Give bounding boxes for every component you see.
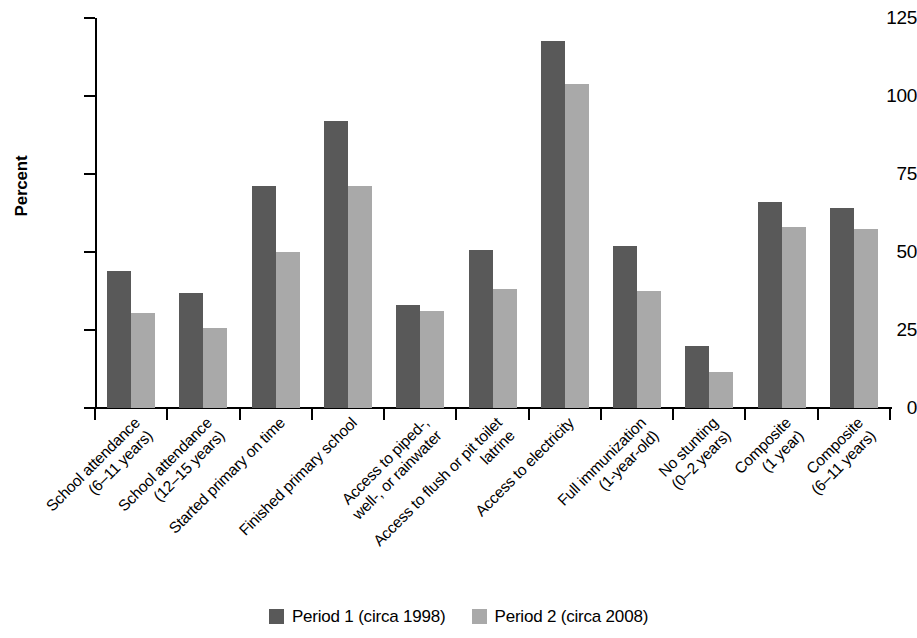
bar — [131, 313, 155, 408]
bar — [830, 208, 854, 408]
bar — [203, 328, 227, 408]
legend-swatch-icon — [269, 609, 284, 624]
legend-swatch-icon — [472, 609, 487, 624]
legend-item: Period 2 (circa 2008) — [472, 608, 649, 625]
bar — [493, 289, 517, 408]
bar — [685, 346, 709, 408]
bar — [782, 227, 806, 408]
bar — [107, 271, 131, 408]
bar — [758, 202, 782, 408]
bar — [637, 291, 661, 408]
legend-label: Period 1 (circa 1998) — [292, 608, 446, 625]
legend-item: Period 1 (circa 1998) — [269, 608, 446, 625]
bar — [541, 41, 565, 408]
bar — [420, 311, 444, 408]
y-axis-tick — [84, 329, 95, 331]
bar — [179, 293, 203, 408]
y-axis-title: Percent — [12, 146, 32, 226]
bar — [324, 121, 348, 408]
bar — [252, 186, 276, 408]
bar — [469, 250, 493, 408]
bar — [396, 305, 420, 408]
y-axis-tick — [84, 251, 95, 253]
bar — [854, 229, 878, 408]
bar — [276, 252, 300, 408]
legend-label: Period 2 (circa 2008) — [495, 608, 649, 625]
bar — [565, 84, 589, 408]
y-axis-tick — [84, 173, 95, 175]
chart-legend: Period 1 (circa 1998)Period 2 (circa 200… — [0, 608, 917, 625]
x-axis-labels: School attendance (6–11 years)School att… — [0, 408, 917, 598]
bar — [348, 186, 372, 408]
bars-layer — [95, 18, 890, 408]
bar — [613, 246, 637, 408]
y-axis-tick — [84, 95, 95, 97]
bar-chart: Percent 0255075100125 School attendance … — [0, 0, 917, 638]
y-axis-tick — [84, 17, 95, 19]
bar — [709, 372, 733, 408]
